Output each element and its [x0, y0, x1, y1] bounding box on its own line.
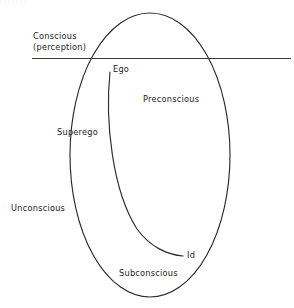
label-id: Id — [187, 250, 195, 261]
label-preconscious: Preconscious — [143, 94, 199, 105]
psyche-diagram: Conscious (perception) Ego Preconscious … — [0, 0, 294, 308]
label-conscious-line1: Conscious — [33, 31, 77, 41]
label-conscious-line2: (perception) — [33, 42, 86, 53]
label-subconscious: Subconscious — [119, 268, 178, 279]
psyche-ellipse-shape — [70, 13, 230, 297]
label-conscious: Conscious (perception) — [33, 31, 86, 52]
label-unconscious: Unconscious — [11, 203, 65, 214]
label-superego: Superego — [57, 127, 98, 138]
label-ego: Ego — [113, 64, 129, 75]
